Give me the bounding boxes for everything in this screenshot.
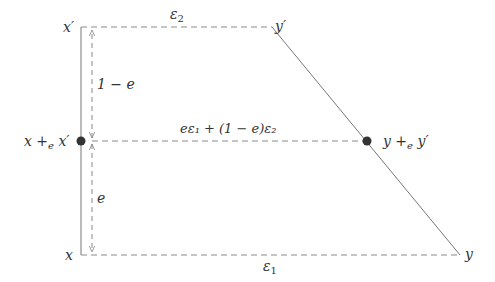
label-epsilon-2: ε2 xyxy=(170,6,184,24)
label-one-minus-e: 1 − e xyxy=(97,76,135,92)
label-mix-left-main: x + xyxy=(24,133,48,149)
label-x: x xyxy=(65,247,73,263)
trapezoid-mixture-diagram: x′ x y′ y x +e x′ y +e y′ ε2 ε1 eε₁ + (1… xyxy=(0,0,495,282)
label-middle-combination: eε₁ + (1 − e)ε₂ xyxy=(180,121,277,136)
label-mix-right-tail: y′ xyxy=(413,133,429,149)
label-mix-right: y +e y′ xyxy=(382,133,429,151)
mixture-point-right xyxy=(363,137,372,146)
label-e: e xyxy=(97,190,105,206)
label-epsilon-1-sub: 1 xyxy=(271,265,277,276)
label-mix-left-tail: x′ xyxy=(54,133,70,149)
label-x-prime: x′ xyxy=(63,19,75,35)
label-mix-left: x +e x′ xyxy=(24,133,70,151)
label-y-prime: y′ xyxy=(274,18,287,34)
label-y: y xyxy=(464,246,474,262)
label-mix-right-main: y + xyxy=(382,133,407,149)
label-epsilon-2-base: ε xyxy=(170,6,178,22)
mixture-point-left xyxy=(77,137,86,146)
label-epsilon-2-sub: 2 xyxy=(178,13,184,24)
label-epsilon-1: ε1 xyxy=(263,258,277,276)
label-epsilon-1-base: ε xyxy=(263,258,271,274)
